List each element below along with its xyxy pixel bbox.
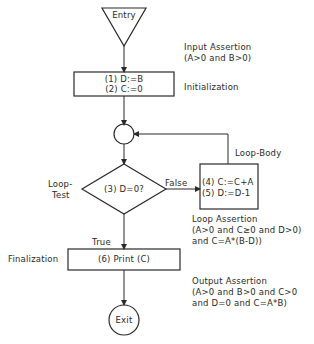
loop-assertion-line1: (A>0 and C≥0 and D>0): [192, 225, 302, 236]
true-edge-label: True: [92, 237, 111, 248]
loop-test-annotation-line1: Loop-: [48, 179, 72, 190]
flowchart: Entry (1) D:=B (2) C:=0 (3) D=0? (4) C:=…: [0, 0, 314, 344]
finalization-annotation: Finalization: [8, 254, 58, 265]
init-step-2: (2) C:=0: [74, 84, 174, 95]
exit-label: Exit: [109, 315, 139, 326]
output-assertion-line2: and D=0 and C=A*B): [192, 298, 287, 309]
junction-node: [114, 124, 134, 144]
input-assertion-body: (A>0 and B>0): [184, 53, 251, 64]
loop-test-condition: (3) D=0?: [92, 184, 156, 195]
input-assertion-title: Input Assertion: [184, 42, 251, 53]
entry-label: Entry: [104, 10, 144, 21]
loop-assertion-line2: and C=A*(B-D)): [192, 236, 262, 247]
loop-body-step-4: (4) C:=C+A: [202, 177, 254, 188]
loop-assertion-title: Loop Assertion: [192, 214, 258, 225]
output-assertion-line1: (A>0 and B>0 and C>0: [192, 287, 297, 298]
loop-test-annotation-line2: Test: [52, 190, 70, 201]
initialization-annotation: Initialization: [184, 82, 239, 93]
false-edge-label: False: [165, 178, 187, 189]
print-step: (6) Print (C): [68, 254, 180, 265]
output-assertion-title: Output Assertion: [192, 276, 267, 287]
loop-body-annotation: Loop-Body: [235, 148, 281, 159]
init-step-1: (1) D:=B: [74, 74, 174, 85]
loop-body-step-5: (5) D:=D-1: [202, 188, 250, 199]
